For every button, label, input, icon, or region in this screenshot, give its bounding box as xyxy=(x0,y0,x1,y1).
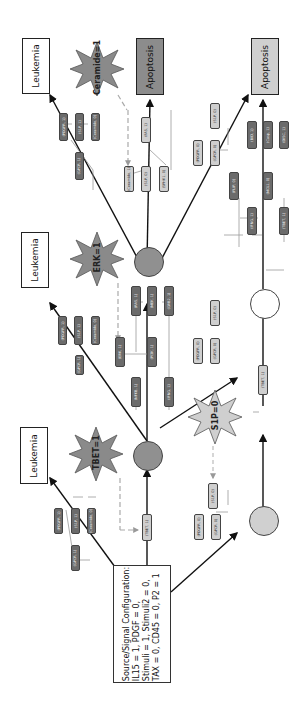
node-gpcr: (GPCR, 1) xyxy=(75,152,84,180)
node-gpcr: (GPCR, 0) xyxy=(211,514,221,540)
node-s1p: (S1P, 1) xyxy=(71,508,80,534)
config-line-2: Stimuli = 1, Stimuli2 = 0, xyxy=(142,567,152,681)
node-gpcr: (GPCR, 1) xyxy=(75,355,84,375)
leukemia-label: Leukemia xyxy=(30,238,40,281)
signaling-diagram: Leukemia Leukemia Leukemia Apoptosis Apo… xyxy=(0,0,290,721)
leukemia-label: Leukemia xyxy=(31,44,41,87)
node-erk: (ERK, 1) xyxy=(115,337,125,367)
node-flip: (FLIP, 0) xyxy=(229,172,239,200)
node-pdgfr: (PDGFR, 1) xyxy=(59,113,68,141)
apoptosis-outcome-dark: Apoptosis xyxy=(136,38,164,95)
node-ceramide: (Ceramide, 0) xyxy=(87,508,96,534)
ceramide-star-label: Ceramide=1 xyxy=(93,38,102,98)
leukemia-label: Leukemia xyxy=(29,434,39,477)
node-pdgfr: (PDGFR, 0) xyxy=(193,140,203,166)
node-ras: (RAS, 1) xyxy=(131,286,141,316)
node-ifng: (IFNG, 1) xyxy=(164,377,174,407)
erk-star-label: ERK=1 xyxy=(93,228,102,288)
node-tbet: (TBET, 1) xyxy=(258,365,268,395)
apoptosis-outcome-light: Apoptosis xyxy=(251,38,279,95)
node-bid: (BID, 1) xyxy=(247,121,257,149)
source-signal-configuration-box: Source/Signal Configuration: IL15 = 1, P… xyxy=(113,565,171,683)
leukemia-outcome-1: Leukemia xyxy=(22,38,50,94)
node-ceramide: (Ceramide, 0) xyxy=(91,316,100,345)
apoptosis-label: Apoptosis xyxy=(145,44,155,88)
state-circle-3 xyxy=(250,289,280,319)
state-circle-2 xyxy=(134,247,164,277)
node-tbet: (TBET, 1) xyxy=(142,514,152,541)
node-nfkb: (NFKB, 1) xyxy=(131,377,141,407)
s1p-star-label: S1P=0 xyxy=(211,386,220,446)
node-tbet: (TBET, 1) xyxy=(279,207,289,235)
state-circle-4 xyxy=(249,506,279,536)
node-s1p: (S1P, 0) xyxy=(208,483,218,509)
node-s1p: (S1P, 1) xyxy=(75,113,84,141)
node-gpcr: (GPCR, 1) xyxy=(71,545,80,571)
node-s1p: (S1P, 0) xyxy=(141,166,151,192)
node-s1p: (S1P, 0) xyxy=(210,300,220,326)
node-ceramide: (Ceramide, 0) xyxy=(91,113,100,141)
leukemia-outcome-2: Leukemia xyxy=(21,232,49,288)
leukemia-outcome-3: Leukemia xyxy=(20,427,48,484)
config-line-3: TAX = 0, CD45 = 0, P2 = 1 xyxy=(152,567,162,681)
node-pdgfr: (PDGFR, 1) xyxy=(54,508,63,534)
config-title: Source/Signal Configuration: xyxy=(122,567,132,681)
node-disc: (DISC, 1) xyxy=(279,121,289,149)
node-casp: (Casp, 1) xyxy=(263,121,273,149)
node-pi3k: (PI3K, 1) xyxy=(147,337,157,367)
node-pdgfr: (PDGFR, 1) xyxy=(58,316,67,345)
node-fas: (FAS, 1) xyxy=(141,117,151,143)
node-s1p: (S1P, 1) xyxy=(74,316,83,345)
node-ifng: (IFNG, 1) xyxy=(247,207,257,235)
node-pdgfr: (PDGFR, 0) xyxy=(194,514,204,540)
apoptosis-label: Apoptosis xyxy=(260,44,270,88)
node-grb2: (GRB2, 1) xyxy=(164,286,174,316)
tbet-star-label: TBET=1 xyxy=(92,423,101,483)
state-circle-1 xyxy=(133,441,163,471)
config-line-1: IL15 = 1, PDGF = 0, xyxy=(132,567,142,681)
node-pdgfr: (PDGFR, 0) xyxy=(193,338,203,364)
node-mcl1: (MCL1, 0) xyxy=(263,172,273,200)
node-sphk1: (SPHK1, 0) xyxy=(159,166,169,192)
node-gpcr: (GPCR, 0) xyxy=(210,338,220,364)
node-gpcr: (GPCR, 0) xyxy=(210,140,220,166)
node-s1p: (S1P, 0) xyxy=(210,103,220,129)
node-ceramide: (Ceramide, 1) xyxy=(124,166,134,192)
node-mek: (MEK, 1) xyxy=(147,286,157,316)
